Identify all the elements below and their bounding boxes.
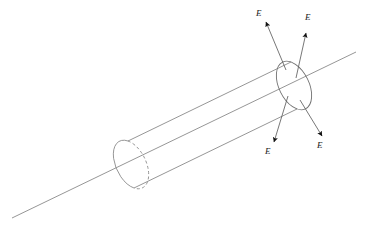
field-label-lower-left: E bbox=[265, 147, 271, 156]
field-label-upper-left: E bbox=[256, 9, 262, 18]
field-label-upper-right: E bbox=[305, 13, 311, 22]
rod-axis-line bbox=[12, 52, 356, 218]
figure-canvas: E E E E bbox=[0, 0, 368, 228]
field-label-lower-right: E bbox=[317, 141, 323, 150]
left-cap-hidden-arc bbox=[128, 141, 149, 189]
cylinder-bottom-edge bbox=[134, 109, 297, 188]
cylinder-field-diagram bbox=[0, 0, 368, 228]
field-arrow-lower-right bbox=[300, 100, 322, 136]
cylinder-top-edge bbox=[128, 62, 291, 141]
right-cap-ellipse bbox=[269, 56, 319, 116]
field-arrow-upper-left bbox=[266, 22, 286, 70]
field-arrow-upper-right bbox=[296, 33, 306, 78]
